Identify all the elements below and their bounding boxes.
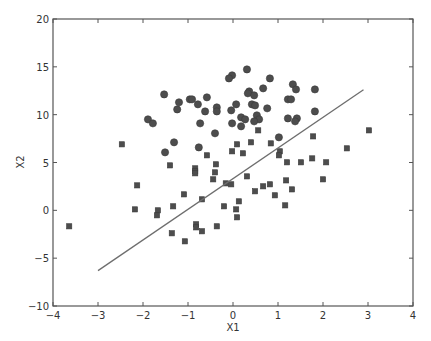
square-marker (248, 140, 253, 145)
circle-marker (211, 130, 218, 137)
square-marker (236, 199, 241, 204)
square-marker (244, 174, 249, 179)
square-marker (283, 203, 288, 208)
square-marker (284, 160, 289, 165)
circle-marker (161, 91, 168, 98)
square-marker (240, 151, 245, 156)
square-marker (289, 187, 294, 192)
circle-marker (243, 66, 250, 73)
circle-marker (266, 75, 273, 82)
circle-marker (202, 108, 209, 115)
circle-marker (228, 107, 235, 114)
x-tick-label: 4 (410, 310, 416, 321)
square-marker (212, 170, 217, 175)
circle-marker (170, 139, 177, 146)
square-marker (268, 141, 273, 146)
square-marker (199, 229, 204, 234)
square-marker (267, 182, 272, 187)
square-marker (182, 239, 187, 244)
square-marker (229, 182, 234, 187)
circle-marker (149, 120, 156, 127)
square-marker (204, 153, 209, 158)
square-marker (284, 178, 289, 183)
circle-marker (242, 116, 249, 123)
circle-marker (264, 105, 271, 112)
square-marker (169, 231, 174, 236)
square-marker (181, 192, 186, 197)
square-marker (193, 171, 198, 176)
square-marker (155, 208, 160, 213)
circle-marker (188, 96, 195, 103)
circle-marker (251, 102, 258, 109)
x-tick-label: −2 (136, 310, 151, 321)
circle-marker (195, 144, 202, 151)
circle-marker (292, 86, 299, 93)
x-tick-label: 1 (275, 310, 281, 321)
square-marker (230, 149, 235, 154)
x-tick-label: 3 (365, 310, 371, 321)
scatter-chart: −4−3−2−101234 −10−505101520 X1 X2 (0, 0, 431, 341)
square-marker (221, 204, 226, 209)
plot-area (53, 19, 413, 306)
circle-marker (311, 86, 318, 93)
x-tick-label: −1 (181, 310, 196, 321)
square-marker (234, 142, 239, 147)
y-tick-label: 0 (43, 205, 49, 216)
square-marker (252, 189, 257, 194)
circle-marker (275, 134, 282, 141)
circle-marker (233, 101, 240, 108)
circle-marker (229, 120, 236, 127)
y-tick-label: 5 (43, 158, 49, 169)
x-tick-label: 0 (230, 310, 236, 321)
square-marker (213, 162, 218, 167)
circle-marker (197, 120, 204, 127)
square-marker (234, 207, 239, 212)
square-marker (214, 224, 219, 229)
circle-marker (251, 118, 258, 125)
y-axis-label: X2 (15, 155, 26, 168)
y-tick-label: 15 (36, 62, 49, 73)
circle-marker (292, 118, 299, 125)
circle-marker (238, 123, 245, 130)
y-tick-label: 10 (36, 110, 49, 121)
square-marker (344, 146, 349, 151)
circle-marker (203, 94, 210, 101)
square-marker (298, 160, 303, 165)
square-marker (132, 207, 137, 212)
square-marker (276, 153, 281, 158)
square-marker (119, 142, 124, 147)
square-marker (211, 177, 216, 182)
square-marker (320, 177, 325, 182)
circle-marker (194, 101, 201, 108)
square-marker (234, 215, 239, 220)
circle-marker (260, 85, 267, 92)
square-marker (167, 163, 172, 168)
circle-marker (161, 149, 168, 156)
circle-marker (284, 115, 291, 122)
y-tick-label: −10 (28, 301, 49, 312)
circle-marker (175, 99, 182, 106)
x-tick-label: −3 (91, 310, 106, 321)
square-marker (171, 204, 176, 209)
plot-border (53, 19, 413, 306)
square-marker (256, 128, 261, 133)
circle-marker (251, 92, 258, 99)
square-marker (324, 160, 329, 165)
square-marker (366, 128, 371, 133)
circle-marker (225, 75, 232, 82)
x-axis-label: X1 (226, 322, 239, 333)
square-marker (311, 134, 316, 139)
square-marker (272, 193, 277, 198)
square-marker (67, 224, 72, 229)
square-marker (154, 213, 159, 218)
circle-marker (213, 108, 220, 115)
y-tick-label: −5 (34, 253, 49, 264)
y-tick-label: 20 (36, 14, 49, 25)
square-marker (135, 183, 140, 188)
circle-marker (174, 106, 181, 113)
x-tick-label: 2 (320, 310, 326, 321)
circle-marker (287, 96, 294, 103)
square-marker (310, 156, 315, 161)
square-marker (261, 184, 266, 189)
square-marker (194, 225, 199, 230)
